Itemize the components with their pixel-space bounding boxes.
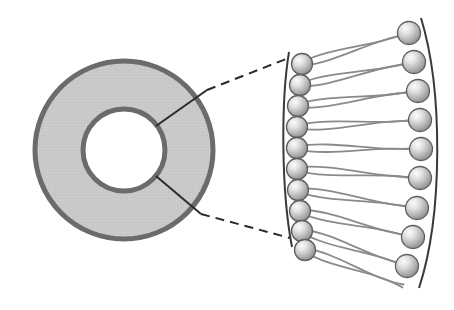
- lipid-head-group: [292, 54, 313, 75]
- lipid-head-group: [396, 255, 419, 278]
- lipid-head-group: [290, 201, 311, 222]
- lipid-head-group: [288, 96, 309, 117]
- lipid-head-group: [406, 197, 429, 220]
- figure-canvas: [0, 0, 454, 310]
- lipid-head-group: [292, 221, 313, 242]
- lipid-head-group: [409, 167, 432, 190]
- lipid-head-group: [409, 109, 432, 132]
- lipid-head-group: [288, 180, 309, 201]
- lipid-head-group: [287, 138, 308, 159]
- lipid-head-group: [402, 226, 425, 249]
- lipid-head-group: [295, 240, 316, 261]
- lipid-head-group: [290, 75, 311, 96]
- lipid-head-group: [410, 138, 433, 161]
- lipid-head-group: [287, 117, 308, 138]
- lipid-head-group: [287, 159, 308, 180]
- lipid-head-group: [403, 51, 426, 74]
- liposome-cross-section: [35, 61, 213, 239]
- lipid-head-group: [407, 80, 430, 103]
- membrane-diagram: [0, 0, 454, 310]
- lipid-head-group: [398, 22, 421, 45]
- vesicle-inner-membrane: [83, 109, 165, 191]
